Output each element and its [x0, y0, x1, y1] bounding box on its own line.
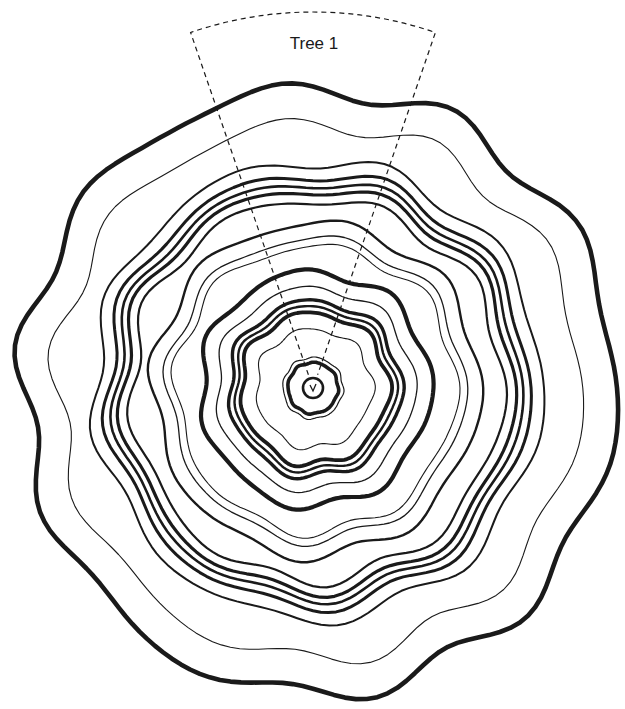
tree-label: Tree 1 — [290, 34, 339, 54]
pith-marker — [303, 378, 323, 398]
tree-cross-section — [0, 0, 625, 709]
tree-ring-diagram: Tree 1 — [0, 0, 625, 709]
pith-circle — [303, 378, 323, 398]
